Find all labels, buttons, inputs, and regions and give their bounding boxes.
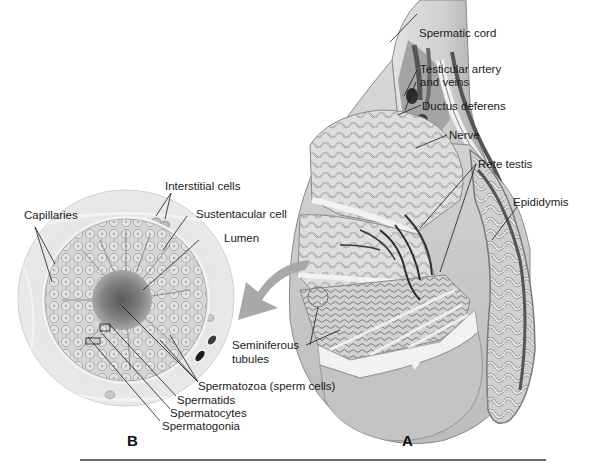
- tubule-cross-section: [10, 190, 240, 406]
- label-spermatids: Spermatids: [177, 394, 235, 407]
- panel-letter-a: A: [402, 432, 413, 449]
- label-spermatic-cord: Spermatic cord: [419, 27, 496, 40]
- label-ductus-deferens: Ductus deferens: [422, 100, 506, 113]
- label-sustentacular-cell: Sustentacular cell: [196, 208, 287, 221]
- panel-letter-b: B: [127, 432, 138, 449]
- label-tubules: tubules: [232, 353, 269, 366]
- label-seminiferous: Seminiferous: [232, 339, 299, 352]
- label-testicular-artery: Testicular artery: [420, 63, 501, 76]
- label-spermatogonia: Spermatogonia: [162, 420, 240, 433]
- label-lumen: Lumen: [224, 232, 259, 245]
- label-epididymis: Epididymis: [513, 196, 569, 209]
- divider-rule: [80, 459, 546, 461]
- label-spermatocytes: Spermatocytes: [170, 407, 247, 420]
- label-capillaries: Capillaries: [24, 209, 78, 222]
- label-testicular-veins: and veins: [420, 76, 469, 89]
- label-spermatozoa: Spermatozoa (sperm cells): [198, 380, 335, 393]
- label-rete-testis: Rete testis: [478, 158, 532, 171]
- label-nerve: Nerve: [449, 129, 480, 142]
- anatomy-figure: Spermatic cord Testicular artery and vei…: [0, 0, 589, 471]
- label-interstitial-cells: Interstitial cells: [165, 180, 240, 193]
